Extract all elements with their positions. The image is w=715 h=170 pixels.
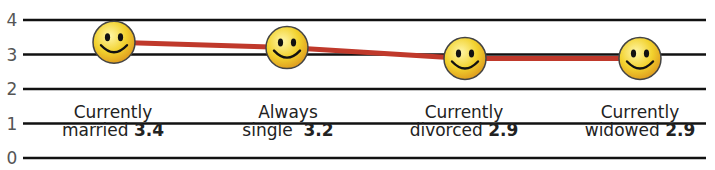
category-label-line2: married — [62, 120, 129, 140]
value-label: 2.9 — [665, 120, 695, 140]
category-label-line2: single — [242, 120, 292, 140]
value-label: 3.4 — [134, 120, 164, 140]
category-label-line1: Always — [242, 102, 333, 122]
category-label-line1: Currently — [410, 102, 519, 122]
smiley-face-icon — [266, 27, 308, 69]
y-tick-label: 2 — [7, 79, 18, 99]
category-label-line1: Currently — [585, 102, 696, 122]
category-label-single: Always single 3.2 — [242, 102, 333, 140]
smiley-face-icon — [444, 37, 486, 79]
smiley-face-icon — [93, 21, 135, 63]
category-label-married: Currently married 3.4 — [62, 102, 164, 140]
data-series — [93, 21, 661, 79]
value-label: 2.9 — [488, 120, 518, 140]
category-label-line1: Currently — [62, 102, 164, 122]
chart-canvas: 01234 — [0, 0, 715, 170]
category-label-line2: widowed — [585, 120, 660, 140]
y-tick-label: 3 — [7, 45, 18, 65]
smiley-face-icon — [619, 37, 661, 79]
y-axis-ticks: 01234 — [7, 10, 18, 168]
category-label-line2: divorced — [410, 120, 483, 140]
category-label-widowed: Currently widowed 2.9 — [585, 102, 696, 140]
value-label: 3.2 — [304, 120, 334, 140]
series-line — [114, 42, 640, 58]
y-tick-label: 1 — [7, 114, 18, 134]
line-chart: 01234 Currently married 3.4 Always singl… — [0, 0, 715, 170]
y-tick-label: 4 — [7, 10, 18, 30]
y-tick-label: 0 — [7, 148, 18, 168]
category-label-divorced: Currently divorced 2.9 — [410, 102, 519, 140]
